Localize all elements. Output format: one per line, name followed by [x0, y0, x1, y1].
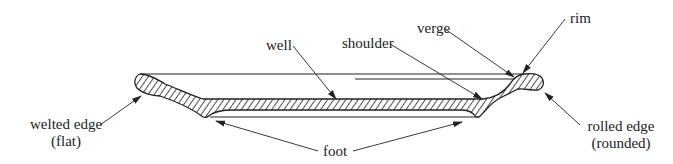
label-rolled-edge: rolled edge (rounded) [580, 118, 662, 152]
label-rolled-edge-line2: (rounded) [580, 135, 662, 152]
label-welted-edge-line1: welted edge [30, 116, 102, 133]
verge-leader [445, 29, 514, 77]
shoulder-leader [390, 44, 482, 99]
label-foot: foot [323, 143, 347, 160]
well-leader [293, 46, 336, 99]
plate-body-section [135, 74, 544, 118]
welted-edge-leader [100, 96, 141, 125]
rim-leader [523, 19, 565, 73]
rolled-edge-leader [545, 93, 580, 125]
label-well: well [266, 37, 292, 54]
foot-leader-right [353, 122, 462, 151]
label-welted-edge-line2: (flat) [30, 133, 102, 150]
label-rim: rim [570, 10, 591, 27]
label-rolled-edge-line1: rolled edge [580, 118, 662, 135]
label-welted-edge: welted edge (flat) [30, 116, 102, 150]
foot-leader-left [216, 121, 318, 151]
label-shoulder: shoulder [342, 35, 394, 52]
label-verge: verge [417, 20, 450, 37]
